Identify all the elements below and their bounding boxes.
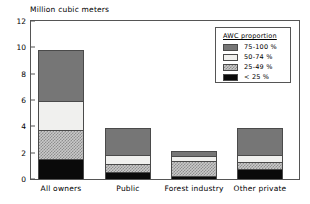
legend-swatch-lt25 — [223, 74, 238, 81]
legend-swatch-75-100 — [223, 44, 238, 51]
legend-title: AWC proportion — [223, 32, 290, 40]
bar-segment-25-49 — [106, 165, 150, 173]
legend-item-50-74[interactable]: 50-74 % — [223, 52, 290, 62]
bar-segment-50-74 — [39, 102, 83, 131]
legend-swatch-50-74 — [223, 54, 238, 61]
bar-all-owners[interactable] — [38, 50, 84, 179]
legend-item-75-100[interactable]: 75-100 % — [223, 42, 290, 52]
y-tick-4: 4 — [21, 122, 31, 131]
bar-segment-75-100 — [238, 129, 282, 155]
bar-public[interactable] — [105, 128, 151, 179]
legend: AWC proportion 75-100 % 50-74 % 25-49 % … — [215, 27, 291, 83]
bar-chart: Million cubic meters 12 10 8 6 4 2 0 — [0, 0, 310, 204]
bar-segment-50-74 — [238, 156, 282, 163]
bar-segment-lt25 — [39, 160, 83, 179]
bar-forest-industry[interactable] — [171, 151, 217, 179]
legend-label-25-49: 25-49 % — [244, 63, 273, 71]
legend-item-lt25[interactable]: < 25 % — [223, 72, 290, 82]
plot-area: 12 10 8 6 4 2 0 — [30, 20, 300, 180]
x-label-forest-industry: Forest industry — [164, 184, 223, 193]
y-tick-6: 6 — [21, 96, 31, 105]
legend-label-50-74: 50-74 % — [244, 53, 273, 61]
y-tick-12: 12 — [16, 17, 31, 26]
y-tick-8: 8 — [21, 69, 31, 78]
legend-label-75-100: 75-100 % — [244, 43, 277, 51]
bar-segment-25-49 — [172, 162, 216, 177]
legend-label-lt25: < 25 % — [244, 73, 269, 81]
bar-segment-25-49 — [238, 163, 282, 170]
x-label-other-private: Other private — [234, 184, 287, 193]
bar-segment-75-100 — [106, 129, 150, 156]
bar-segment-25-49 — [39, 131, 83, 160]
bar-segment-75-100 — [39, 51, 83, 102]
y-tick-0: 0 — [21, 175, 31, 184]
x-label-all-owners: All owners — [41, 184, 82, 193]
y-tick-2: 2 — [21, 148, 31, 157]
bar-other-private[interactable] — [237, 128, 283, 179]
x-label-public: Public — [116, 184, 139, 193]
y-axis-title: Million cubic meters — [30, 5, 109, 14]
bar-segment-lt25 — [172, 177, 216, 179]
bar-segment-lt25 — [106, 173, 150, 179]
bar-segment-lt25 — [238, 170, 282, 179]
legend-swatch-25-49 — [223, 64, 238, 71]
legend-item-25-49[interactable]: 25-49 % — [223, 62, 290, 72]
bar-segment-50-74 — [106, 156, 150, 164]
y-tick-10: 10 — [16, 43, 31, 52]
